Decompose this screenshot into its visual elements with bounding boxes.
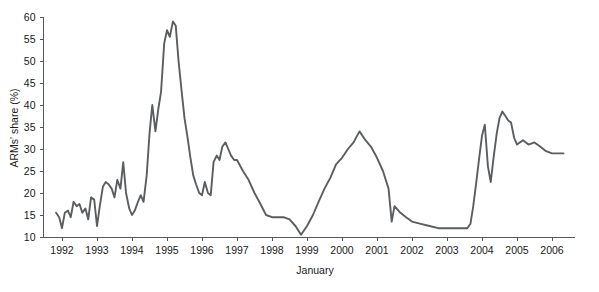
y-tick-label: 40	[24, 99, 36, 111]
y-axis-ticks	[40, 17, 44, 237]
y-tick-label: 20	[24, 187, 36, 199]
data-series-line	[56, 21, 564, 234]
y-tick-label: 35	[24, 121, 36, 133]
line-chart: 1015202530354045505560 19921993199419951…	[0, 0, 599, 292]
x-tick-label: 2003	[435, 244, 459, 256]
x-tick-label: 1992	[50, 244, 74, 256]
x-axis-title: January	[296, 264, 334, 276]
y-tick-label: 55	[24, 33, 36, 45]
y-tick-label: 30	[24, 143, 36, 155]
x-tick-label: 1995	[155, 244, 179, 256]
x-tick-label: 1997	[225, 244, 249, 256]
x-tick-label: 1993	[85, 244, 109, 256]
x-axis-tick-labels: 1992199319941995199619971998199920002001…	[50, 244, 564, 256]
x-tick-label: 2006	[540, 244, 564, 256]
y-tick-label: 10	[24, 231, 36, 243]
x-axis-ticks	[62, 237, 552, 241]
y-tick-label: 50	[24, 55, 36, 67]
x-tick-label: 2002	[400, 244, 424, 256]
x-tick-label: 2004	[470, 244, 494, 256]
y-tick-label: 60	[24, 11, 36, 23]
x-tick-label: 1998	[260, 244, 284, 256]
x-tick-label: 2000	[330, 244, 354, 256]
y-tick-label: 45	[24, 77, 36, 89]
x-tick-label: 1996	[190, 244, 214, 256]
y-tick-label: 25	[24, 165, 36, 177]
y-axis-title: ARMs' share (%)	[8, 88, 20, 167]
x-tick-label: 2005	[505, 244, 529, 256]
chart-page: 1015202530354045505560 19921993199419951…	[0, 0, 599, 292]
x-tick-label: 1994	[120, 244, 144, 256]
y-axis-tick-labels: 1015202530354045505560	[24, 11, 36, 243]
x-tick-label: 2001	[365, 244, 389, 256]
x-tick-label: 1999	[295, 244, 319, 256]
y-tick-label: 15	[24, 209, 36, 221]
